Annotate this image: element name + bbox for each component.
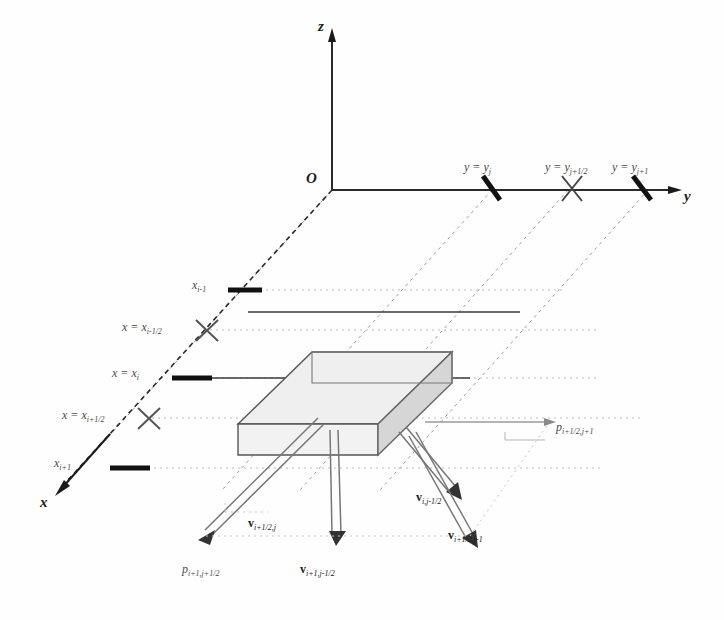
axis-label-y: y <box>684 188 691 205</box>
x-tick-label-iplus1: xi+1 <box>54 456 71 472</box>
figure-canvas: z y x O y = yj y = yj+1/2 y = yj+1 xi-1 … <box>0 0 724 620</box>
x-tick-cross-iplushalf <box>138 408 160 429</box>
axis-label-z: z <box>318 18 324 35</box>
y-tick-label-jplus1: y = yj+1 <box>612 160 648 176</box>
y-tick-cross-jhalf <box>562 176 582 201</box>
z-axis <box>328 28 336 190</box>
y-tick-bar-j <box>483 176 500 200</box>
x-tick-label-iplushalf: x = xi+1/2 <box>62 408 105 424</box>
label-pressure-right: pi+1/2,j+1 <box>556 420 593 436</box>
label-velocity-bottom-center: vi+1,j-1/2 <box>300 562 335 578</box>
axis-label-x: x <box>40 494 48 511</box>
x-tick-cross-iminushalf <box>196 320 218 341</box>
x-tick-label-iminushalf: x = xi-1/2 <box>122 320 162 336</box>
x-tick-label-i: x = xi <box>112 366 139 382</box>
pressure-right-arrow <box>425 418 556 440</box>
y-axis <box>332 186 682 194</box>
diagram-svg <box>0 0 724 620</box>
origin-label: O <box>306 170 317 187</box>
label-velocity-center-bottom: vi+1/2,j <box>248 516 276 532</box>
label-velocity-right-upper: vi,j-1/2 <box>416 490 441 506</box>
x-tick-label-iminus1: xi-1 <box>192 278 206 294</box>
label-pressure-bottom-left: pi+1,j+1/2 <box>182 562 219 578</box>
y-tick-label-j: y = yj <box>464 160 491 176</box>
label-velocity-right-lower: vi+1/2,j-1 <box>448 528 483 544</box>
y-tick-markers <box>483 176 651 201</box>
y-tick-label-jplushalf: y = yj+1/2 <box>545 160 588 176</box>
